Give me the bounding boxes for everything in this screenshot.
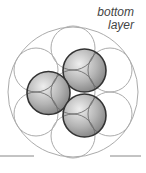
- label-layer: layer: [108, 19, 134, 32]
